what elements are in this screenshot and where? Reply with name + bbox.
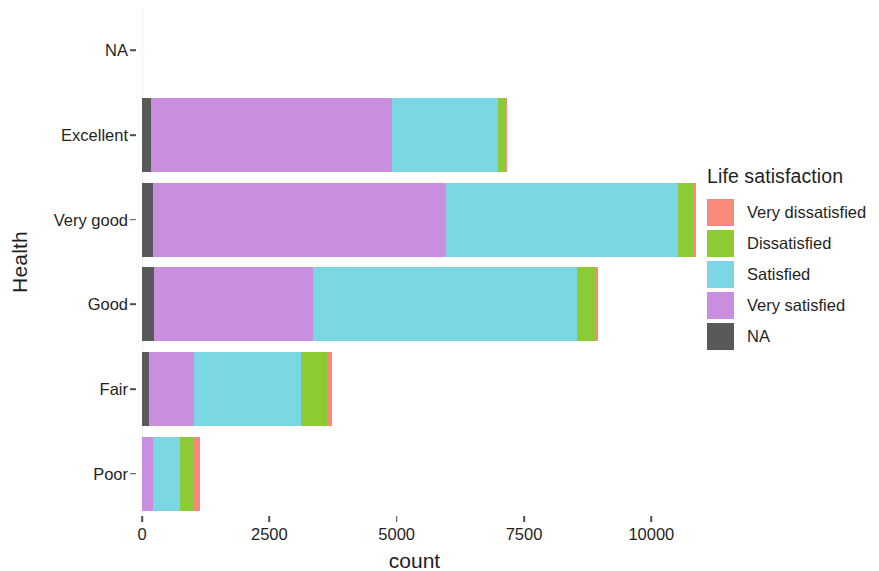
bar-row (142, 437, 200, 511)
legend-title: Life satisfaction (707, 165, 879, 188)
bar-segment (142, 352, 149, 426)
legend-item: Very satisfied (707, 290, 879, 321)
legend-swatch (707, 199, 734, 226)
legend-item: NA (707, 321, 879, 352)
bar-segment (142, 98, 151, 172)
y-axis-tick-mark (130, 304, 136, 306)
legend-swatch (707, 230, 734, 257)
x-axis-tick-mark (269, 516, 271, 522)
x-axis-tick-mark (396, 516, 398, 522)
bar-segment (595, 267, 598, 341)
legend-item: Dissatisfied (707, 228, 879, 259)
bar-segment (505, 98, 507, 172)
bar-segment (577, 267, 594, 341)
legend-item: Very dissatisfied (707, 197, 879, 228)
bar-segment (142, 267, 154, 341)
bar-segment (142, 437, 153, 511)
bar-segment (313, 267, 577, 341)
bar-segment (498, 98, 505, 172)
bar-segment (153, 437, 180, 511)
bar-segment (151, 98, 392, 172)
x-axis-tick-mark (141, 516, 143, 522)
x-axis-title: count (142, 549, 687, 571)
x-axis-tick-label: 7500 (506, 525, 543, 544)
legend-swatch (707, 323, 734, 350)
legend-swatch (707, 261, 734, 288)
x-axis-tick-label: 5000 (378, 525, 415, 544)
y-axis-tick-label: NA (105, 41, 128, 60)
x-axis-tick-label: 2500 (251, 525, 288, 544)
y-axis-tick-mark (130, 50, 136, 52)
x-axis-tick-mark (523, 516, 525, 522)
plot-panel (142, 8, 687, 516)
y-axis-tick-mark (130, 388, 136, 390)
bar-segment (446, 183, 679, 257)
bar-segment (693, 183, 696, 257)
legend-label: NA (747, 327, 770, 346)
x-axis-tick-label: 10000 (628, 525, 674, 544)
legend: Life satisfaction Very dissatisfiedDissa… (707, 165, 879, 352)
bar-segment (142, 183, 153, 257)
bar-row (142, 267, 598, 341)
bar-row (142, 98, 507, 172)
bar-segment (327, 352, 332, 426)
legend-label: Dissatisfied (747, 234, 831, 253)
legend-label: Very dissatisfied (747, 203, 866, 222)
y-axis-tick-mark (130, 219, 136, 221)
bar-segment (301, 352, 327, 426)
bar-row (142, 352, 332, 426)
bar-segment (149, 352, 194, 426)
stacked-bar-chart: Health NAExcellentVery goodGoodFairPoor … (0, 0, 879, 571)
y-axis-tick-label: Fair (100, 380, 128, 399)
legend-item-list: Very dissatisfiedDissatisfiedSatisfiedVe… (707, 197, 879, 352)
bar-segment (154, 267, 313, 341)
x-axis-tick-mark (651, 516, 653, 522)
bar-segment (153, 183, 446, 257)
bar-segment (180, 437, 193, 511)
bar-segment (678, 183, 692, 257)
y-axis-tick-label: Good (88, 295, 128, 314)
legend-item: Satisfied (707, 259, 879, 290)
y-axis-tick-label: Very good (54, 210, 128, 229)
bar-segment (392, 98, 498, 172)
x-axis: count 025005000750010000 (142, 516, 687, 571)
legend-label: Very satisfied (747, 296, 845, 315)
bar-segment (194, 352, 301, 426)
bar-row (142, 183, 696, 257)
y-axis-tick-mark (130, 473, 136, 475)
y-axis-tick-label: Excellent (61, 126, 128, 145)
y-axis-tick-group: NAExcellentVery goodGoodFairPoor (0, 0, 142, 571)
x-axis-tick-label: 0 (137, 525, 146, 544)
bar-segment (193, 437, 200, 511)
legend-swatch (707, 292, 734, 319)
y-axis-tick-mark (130, 134, 136, 136)
legend-label: Satisfied (747, 265, 810, 284)
y-axis-tick-label: Poor (93, 464, 128, 483)
